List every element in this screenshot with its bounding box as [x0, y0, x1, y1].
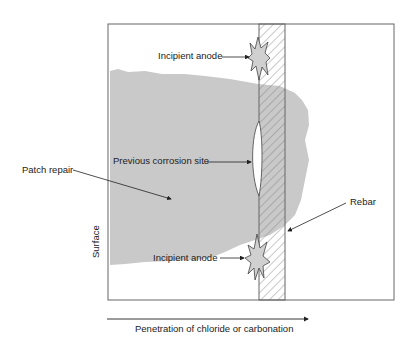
- label-penetration-axis: Penetration of chloride or carbonation: [135, 324, 293, 334]
- label-previous-corrosion-site: Previous corrosion site: [113, 156, 209, 166]
- label-patch-repair: Patch repair: [22, 165, 73, 175]
- label-rebar: Rebar: [350, 197, 376, 207]
- label-incipient-anode-top: Incipient anode: [158, 51, 222, 61]
- label-surface: Surface: [91, 225, 101, 258]
- label-incipient-anode-bottom: Incipient anode: [153, 253, 217, 263]
